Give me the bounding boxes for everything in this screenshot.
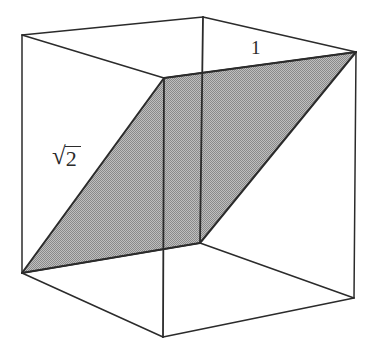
cube-diagram-figure: √2 1 [0, 0, 372, 357]
cube-edge-top-front-left [22, 35, 164, 78]
cube-edge-vertical-front-right [354, 52, 356, 298]
radical-group: √2 [52, 143, 81, 168]
diagonal-length-label: √2 [52, 143, 81, 168]
cube-edge-bottom-back-right [200, 243, 354, 298]
cube-edge-bottom-front-right [163, 298, 354, 337]
cube-edge-bottom-front-left [22, 273, 163, 337]
cube-edge-vertical-front-left [163, 78, 164, 337]
cube-edge-top-back-left [22, 17, 203, 35]
cube-diagram-svg [0, 0, 372, 357]
radicand-value: 2 [65, 146, 81, 170]
cube-edge-top-back-right [203, 17, 356, 52]
edge-length-label: 1 [251, 38, 261, 57]
radical-sign-icon: √ [52, 143, 66, 168]
